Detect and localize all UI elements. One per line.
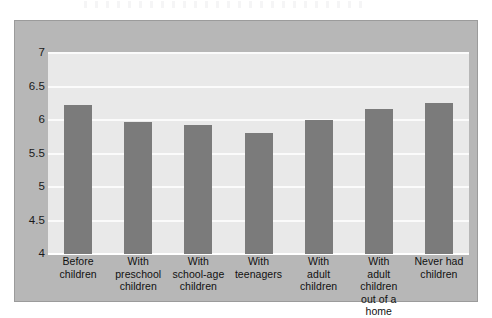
x-category-line: With <box>289 255 349 268</box>
y-tick-label: 7 <box>15 47 45 59</box>
x-category-label: Never hadchildren <box>409 255 469 280</box>
plot-area <box>48 53 469 254</box>
x-category-line: preschool <box>108 268 168 281</box>
x-category-label: Withpreschoolchildren <box>108 255 168 293</box>
x-category-line: Before <box>48 255 108 268</box>
figure-panel: 44.555.566.57 BeforechildrenWithpreschoo… <box>14 20 478 302</box>
x-category-line: children <box>168 280 228 293</box>
bar <box>245 133 273 254</box>
y-tick-label: 4 <box>15 248 45 260</box>
y-tick-label: 5 <box>15 181 45 193</box>
x-category-line: With <box>108 255 168 268</box>
x-category-line: school-age <box>168 268 228 281</box>
x-category-label: Withadult childrenout of a home <box>349 255 409 318</box>
x-category-line: With <box>168 255 228 268</box>
bar <box>64 105 92 254</box>
bar <box>305 120 333 254</box>
bars-layer <box>48 53 469 254</box>
x-axis: BeforechildrenWithpreschoolchildrenWiths… <box>48 255 469 301</box>
x-category-line: children <box>289 280 349 293</box>
x-category-line: children <box>48 268 108 281</box>
bar <box>425 103 453 254</box>
y-axis: 44.555.566.57 <box>15 53 45 254</box>
x-category-label: Withschool-agechildren <box>168 255 228 293</box>
y-tick-label: 6.5 <box>15 81 45 93</box>
y-tick-label: 5.5 <box>15 148 45 160</box>
x-category-line: out of a home <box>349 293 409 318</box>
x-category-label: Withteenagers <box>228 255 288 280</box>
x-category-line: adult <box>289 268 349 281</box>
chart-screenshot: 44.555.566.57 BeforechildrenWithpreschoo… <box>0 0 492 318</box>
x-category-label: Withadultchildren <box>289 255 349 293</box>
x-category-line: With <box>349 255 409 268</box>
bar <box>184 125 212 254</box>
x-category-line: With <box>228 255 288 268</box>
y-tick-label: 4.5 <box>15 215 45 227</box>
x-category-label: Beforechildren <box>48 255 108 280</box>
x-category-line: children <box>108 280 168 293</box>
y-tick-label: 6 <box>15 114 45 126</box>
x-category-line: children <box>409 268 469 281</box>
x-category-line: Never had <box>409 255 469 268</box>
scan-artifact <box>84 1 364 8</box>
x-category-line: teenagers <box>228 268 288 281</box>
bar <box>124 122 152 254</box>
bar <box>365 109 393 254</box>
x-category-line: adult children <box>349 268 409 293</box>
